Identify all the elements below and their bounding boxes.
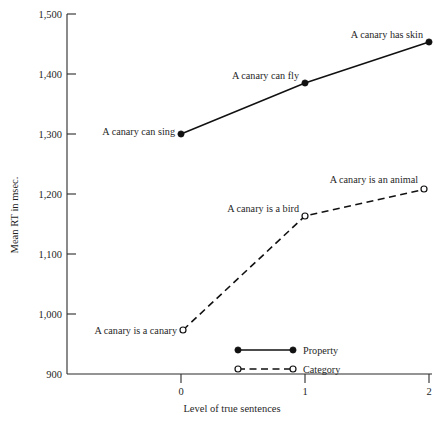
series-category-point-1	[302, 213, 308, 219]
point-annotations: A canary can sing A canary can fly A can…	[94, 29, 423, 336]
annotation-canary-is-a-bird: A canary is a bird	[227, 203, 299, 214]
x-tick-label-1: 1	[302, 386, 307, 397]
y-tick-label-1200: 1,200	[38, 189, 62, 200]
series-property-point-2	[426, 39, 432, 45]
annotation-canary-can-fly: A canary can fly	[232, 70, 300, 81]
legend-label-category: Category	[303, 364, 341, 375]
series-category-point-0	[180, 327, 186, 333]
series-property-point-1	[302, 80, 308, 86]
legend-swatch-category-marker-right	[290, 366, 296, 372]
x-axis-title: Level of true sentences	[183, 403, 280, 414]
legend-swatch-property-marker-right	[290, 347, 296, 353]
y-tick-label-1500: 1,500	[38, 9, 62, 20]
legend-label-property: Property	[303, 345, 339, 356]
annotation-canary-is-an-animal: A canary is an animal	[330, 174, 418, 185]
x-axis-tick-labels: 0 1 2	[178, 386, 431, 397]
annotation-canary-has-skin: A canary has skin	[351, 29, 423, 40]
legend-item-property[interactable]: Property	[235, 345, 339, 356]
series-category-line	[183, 189, 426, 330]
legend-swatch-property-marker-left	[235, 347, 241, 353]
y-tick-label-1100: 1,100	[38, 249, 62, 260]
y-tick-label-1300: 1,300	[38, 129, 62, 140]
chart-legend: Property Category	[235, 345, 341, 375]
figure-container: 1,500 1,400 1,300 1,200 1,100 1,000 900 …	[0, 0, 434, 431]
series-category	[180, 186, 427, 333]
chart-canvas: 1,500 1,400 1,300 1,200 1,100 1,000 900 …	[0, 0, 434, 431]
y-tick-label-1400: 1,400	[38, 69, 62, 80]
x-axis-ticks	[181, 374, 429, 383]
y-axis-ticks	[67, 14, 76, 314]
x-tick-label-2: 2	[426, 386, 431, 397]
legend-swatch-category-marker-left	[235, 366, 241, 372]
y-axis-tick-labels: 1,500 1,400 1,300 1,200 1,100 1,000 900	[38, 9, 62, 380]
legend-item-category[interactable]: Category	[235, 364, 341, 375]
annotation-canary-is-a-canary: A canary is a canary	[94, 325, 177, 336]
x-tick-label-0: 0	[178, 386, 183, 397]
y-tick-label-900: 900	[46, 369, 62, 380]
y-tick-label-1000: 1,000	[38, 309, 62, 320]
annotation-canary-can-sing: A canary can sing	[102, 126, 175, 137]
series-category-point-2	[421, 186, 427, 192]
series-property-line	[181, 42, 429, 134]
series-property	[178, 39, 432, 137]
y-axis-title: Mean RT in msec.	[9, 177, 20, 254]
series-property-point-0	[178, 131, 184, 137]
